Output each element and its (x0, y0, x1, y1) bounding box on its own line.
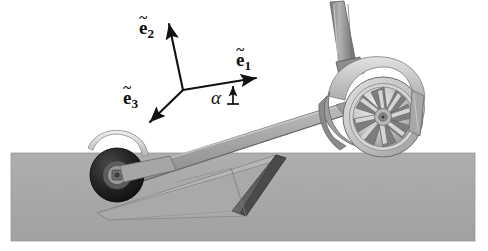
e3-subscript: 3 (131, 96, 138, 111)
e1-subscript: 1 (244, 58, 251, 73)
scooter-diagram (0, 0, 488, 251)
label-alpha: α (211, 88, 221, 107)
label-e1: ~e1 (236, 50, 251, 72)
alpha-angle-indicator (227, 86, 239, 104)
e2-arrow (169, 24, 183, 90)
e3-arrow (150, 90, 183, 122)
e2-subscript: 2 (147, 26, 154, 41)
e2-tilde: ~ (139, 10, 147, 25)
basis-frame (150, 24, 256, 122)
label-e2: ~e2 (139, 18, 154, 40)
figure-canvas: ~e2 ~e1 ~e3 α (0, 0, 488, 251)
label-e3: ~e3 (123, 88, 138, 110)
e1-tilde: ~ (236, 42, 244, 57)
rear-wheel-assembly (319, 1, 425, 157)
e3-tilde: ~ (123, 80, 131, 95)
